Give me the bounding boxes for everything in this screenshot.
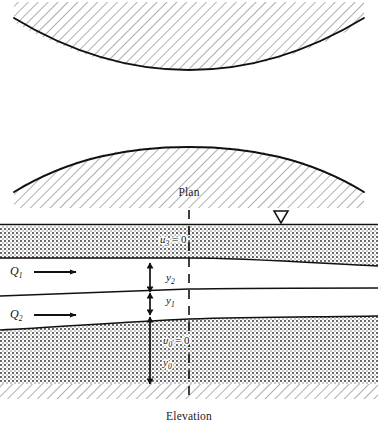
label-velocity-u3: u3 = 0	[160, 233, 186, 248]
label-discharge-q2: Q2	[10, 307, 22, 323]
label-depth-y2: y2	[166, 271, 175, 286]
figure-root: Q1 Q2 u3 = 0 u0 = 0 y2 y1 y0 Plan Elevat…	[0, 0, 378, 434]
figure-canvas	[0, 0, 378, 434]
plan-view	[0, 0, 378, 212]
plan-upper-bank	[0, 0, 378, 90]
caption-plan: Plan	[0, 186, 378, 198]
elevation-view	[0, 210, 378, 400]
label-depth-y1: y1	[166, 294, 175, 309]
label-discharge-q1: Q1	[10, 264, 22, 280]
label-depth-y0: y0	[163, 356, 172, 371]
plan-lower-bank	[0, 140, 378, 212]
label-velocity-u0: u0 = 0	[163, 334, 189, 349]
water-surface-triangle-icon	[274, 211, 288, 223]
caption-elevation: Elevation	[0, 410, 378, 422]
